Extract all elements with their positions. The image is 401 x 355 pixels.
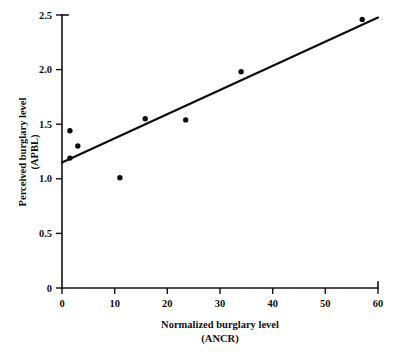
y-tick-label-0: 0 [47,283,52,294]
x-tick-label-10: 10 [109,298,120,309]
data-point [75,143,80,148]
x-tick-label-30: 30 [215,298,226,309]
data-point [238,69,243,74]
data-point [117,175,122,180]
plot-axes [62,15,378,288]
x-axis-title-line1: Normalized burglary level [161,319,279,330]
x-tick-label-0: 0 [59,298,64,309]
y-axis-title-line1: Perceived burglary level [17,97,28,206]
x-axis-ticks [62,288,378,294]
y-tick-label-1.0: 1.0 [39,173,52,184]
x-tick-label-60: 60 [373,298,384,309]
x-axis-title-line2: (ANCR) [201,333,239,345]
y-tick-label-0.5: 0.5 [39,228,52,239]
y-tick-label-2.0: 2.0 [39,64,52,75]
data-point [183,117,188,122]
x-tick-label-20: 20 [162,298,173,309]
y-tick-labels: 0 0.5 1.0 1.5 2.0 2.5 [39,10,52,294]
y-tick-label-1.5: 1.5 [39,119,52,130]
data-point [360,17,365,22]
y-axis-title-line2: (APBL) [29,134,41,170]
chart-page: 0 0.5 1.0 1.5 2.0 2.5 0 10 20 30 40 50 6… [0,0,401,355]
data-point [67,155,72,160]
x-tick-labels: 0 10 20 30 40 50 60 [59,298,383,309]
data-point [67,128,72,133]
x-tick-label-40: 40 [267,298,278,309]
x-tick-label-50: 50 [320,298,331,309]
data-points [67,17,365,181]
data-point [143,116,148,121]
x-axis-title: Normalized burglary level (ANCR) [161,319,279,345]
scatter-plot: 0 0.5 1.0 1.5 2.0 2.5 0 10 20 30 40 50 6… [0,0,401,355]
y-axis-title: Perceived burglary level (APBL) [17,97,41,206]
regression-line [62,18,378,163]
y-axis-ticks [56,15,62,288]
y-tick-label-2.5: 2.5 [39,10,52,21]
